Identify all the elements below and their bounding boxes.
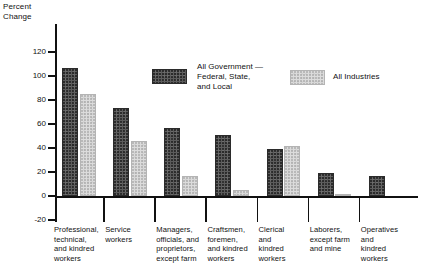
legend-label-industries: All Industries — [333, 72, 380, 82]
y-tick-label-120: 120 — [2, 48, 46, 56]
category-label-6: Operatives and kindred workers — [361, 225, 409, 263]
y-tick-label-wrap-80: 80 — [0, 96, 46, 104]
bar-government-1 — [113, 108, 129, 196]
category-label-3: Craftsmen, foremen, and kindred workers — [207, 225, 255, 263]
y-tick-label-wrap--20: -20 — [0, 216, 46, 224]
category-label-0: Professional, technical, and kindred wor… — [54, 225, 102, 263]
legend-swatch-industries — [290, 70, 325, 85]
bar-industries-0 — [80, 94, 96, 196]
y-tick-60 — [48, 123, 55, 124]
y-tick-label-wrap-20: 20 — [0, 168, 46, 176]
y-tick-label-100: 100 — [2, 72, 46, 80]
y-tick-40 — [48, 147, 55, 148]
y-axis-line — [55, 24, 57, 222]
y-tick-20 — [48, 171, 55, 172]
bar-industries-4 — [284, 146, 300, 196]
bar-government-4 — [267, 149, 283, 196]
y-tick-label-wrap-120: 120 — [0, 48, 46, 56]
category-divider-4 — [257, 196, 259, 222]
y-tick-label-0: 0 — [2, 192, 46, 200]
category-label-2: Managers, officials, and proprietors, ex… — [156, 225, 204, 263]
category-label-5: Laborers, except farm and mine — [310, 225, 358, 254]
y-tick-120 — [48, 51, 55, 52]
y-tick-label-wrap-40: 40 — [0, 144, 46, 152]
bar-government-6 — [369, 176, 385, 196]
bar-industries-5 — [335, 194, 351, 196]
x-axis-zero-line — [55, 196, 418, 198]
bar-industries-2 — [182, 176, 198, 196]
bar-industries-3 — [233, 190, 249, 196]
category-divider-2 — [154, 196, 156, 222]
category-divider-1 — [103, 196, 105, 222]
y-tick-label-wrap-0: 0 — [0, 192, 46, 200]
category-divider-6 — [359, 196, 361, 222]
y-axis-title: Percent Change — [3, 2, 32, 21]
bar-industries-1 — [131, 141, 147, 196]
bar-chart: Percent Change -20020406080100120 Profes… — [0, 0, 421, 279]
category-label-1: Service workers — [105, 225, 153, 244]
y-tick--20 — [48, 219, 55, 220]
y-tick-label-60: 60 — [2, 120, 46, 128]
y-tick-label-80: 80 — [2, 96, 46, 104]
y-tick-80 — [48, 99, 55, 100]
bar-government-2 — [164, 128, 180, 196]
category-divider-5 — [308, 196, 310, 222]
bar-government-0 — [62, 68, 78, 196]
y-tick-0 — [48, 195, 55, 196]
legend-swatch-government — [152, 69, 187, 84]
y-tick-label-wrap-60: 60 — [0, 120, 46, 128]
category-divider-3 — [205, 196, 207, 222]
y-tick-label-wrap-100: 100 — [0, 72, 46, 80]
y-tick-label-40: 40 — [2, 144, 46, 152]
y-tick-100 — [48, 75, 55, 76]
y-tick-label--20: -20 — [2, 216, 46, 224]
bar-government-3 — [215, 135, 231, 196]
category-label-4: Clerical and kindred workers — [259, 225, 307, 263]
bar-government-5 — [318, 173, 334, 196]
legend-label-government: All Government — Federal, State, and Loc… — [197, 62, 263, 92]
y-tick-label-20: 20 — [2, 168, 46, 176]
